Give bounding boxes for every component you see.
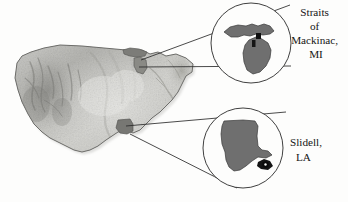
map-figure: Straits of Mackinac, MI Slidell, LA bbox=[0, 0, 348, 202]
michigan-label-line-3: Mackinac, bbox=[291, 34, 338, 46]
michigan-label-line-4: MI bbox=[309, 48, 323, 60]
michigan-label-line-1: Straits bbox=[300, 6, 329, 18]
louisiana-label-line-2: LA bbox=[296, 151, 311, 163]
michigan-label-line-2: of bbox=[310, 20, 320, 32]
louisiana-label-line-1: Slidell, bbox=[290, 136, 322, 148]
